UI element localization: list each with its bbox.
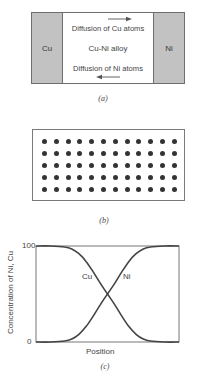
y-axis-label: Concentration of Ni, Cu [6, 241, 15, 345]
copper-block-label: Cu [42, 44, 52, 53]
atom-dot [66, 175, 71, 180]
atom-dot [136, 151, 141, 156]
atom-dot [89, 139, 94, 144]
cu-diffusion-label: Diffusion of Cu atoms [62, 24, 154, 33]
atom-dot [77, 139, 82, 144]
atom-dot [66, 151, 71, 156]
atom-dot [54, 151, 59, 156]
caption-a: (a) [83, 94, 123, 103]
atom-dot [101, 163, 106, 168]
atom-dot [113, 187, 118, 192]
atom-dot [172, 187, 177, 192]
ni-series-label: Ni [123, 272, 131, 281]
atom-dot [113, 163, 118, 168]
atom-dot [54, 163, 59, 168]
atom-dot [42, 163, 47, 168]
atom-dot [148, 163, 153, 168]
atom-dot [89, 151, 94, 156]
atom-dot [77, 163, 82, 168]
atom-dot [89, 187, 94, 192]
atom-dot [77, 151, 82, 156]
atom-dot [101, 175, 106, 180]
atom-dot [113, 139, 118, 144]
concentration-profile-chart: 100 0 Concentration of Ni, Cu Cu Ni Posi… [0, 236, 198, 381]
atom-dot [148, 175, 153, 180]
atom-dot [125, 175, 130, 180]
atom-dot [89, 175, 94, 180]
atom-dot [42, 187, 47, 192]
atom-dot [101, 187, 106, 192]
caption-c: (c) [85, 362, 125, 371]
atom-dot [148, 151, 153, 156]
atom-dot [42, 151, 47, 156]
arrow-left-icon [96, 74, 120, 80]
atom-dot [89, 163, 94, 168]
atom-dot [77, 175, 82, 180]
y-tick-100: 100 [22, 241, 35, 250]
atom-dot [160, 151, 165, 156]
atom-dot [136, 175, 141, 180]
atom-dot [160, 187, 165, 192]
atom-dot [148, 139, 153, 144]
atom-dot [160, 175, 165, 180]
atom-dot [172, 175, 177, 180]
atom-dot [54, 187, 59, 192]
alloy-label: Cu-Ni alloy [62, 44, 154, 53]
atom-dot [113, 151, 118, 156]
atom-dot [125, 163, 130, 168]
atom-dot [101, 139, 106, 144]
ni-curve [36, 246, 179, 342]
y-tick-0: 0 [27, 337, 31, 346]
copper-block: Cu [32, 13, 63, 83]
x-axis-label: Position [86, 347, 114, 356]
atom-dot [172, 151, 177, 156]
atom-lattice-diagram [32, 129, 185, 201]
atom-dot [101, 151, 106, 156]
atom-dot [125, 187, 130, 192]
nickel-block-label: Ni [165, 44, 173, 53]
atom-dot [66, 187, 71, 192]
atom-dot [160, 163, 165, 168]
atom-dot [125, 139, 130, 144]
atom-dot [172, 139, 177, 144]
atom-dot [136, 187, 141, 192]
atom-dot [148, 187, 153, 192]
atom-dot [125, 151, 130, 156]
atom-dot [136, 139, 141, 144]
atom-dot [54, 139, 59, 144]
atom-dot [42, 175, 47, 180]
ni-diffusion-label: Diffusion of Ni atoms [62, 64, 154, 73]
caption-b: (b) [84, 216, 124, 225]
atom-dot [113, 175, 118, 180]
atom-dot [42, 139, 47, 144]
atom-dot [77, 187, 82, 192]
atom-dot [66, 139, 71, 144]
atom-dot [172, 163, 177, 168]
chart-plot-area [0, 236, 198, 381]
atom-dot [66, 163, 71, 168]
atom-dot [136, 163, 141, 168]
atom-dot [54, 175, 59, 180]
diffusion-couple-diagram: Cu Ni Diffusion of Cu atoms Cu-Ni alloy … [31, 12, 185, 84]
atom-dot [160, 139, 165, 144]
arrow-right-icon [108, 16, 132, 22]
nickel-block: Ni [153, 13, 184, 83]
cu-series-label: Cu [82, 272, 92, 281]
